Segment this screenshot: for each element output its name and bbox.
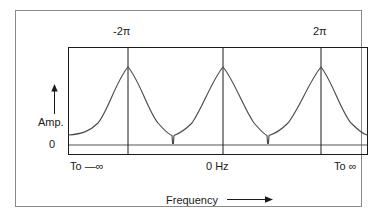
y-axis-tick-label-zero: 0 (49, 139, 55, 150)
spectrum-curve (69, 67, 367, 144)
arrow-up-icon (50, 84, 59, 114)
x-axis-label-frequency: Frequency (166, 195, 218, 206)
x-axis-tick-label-to-negative-infinity: To —∞ (70, 161, 104, 172)
label-positive-two-pi: 2π (313, 26, 327, 37)
x-axis-tick-label-zero-hz: 0 Hz (206, 161, 229, 172)
spectrum-plot (68, 47, 368, 155)
arrow-right-icon (227, 194, 273, 205)
label-negative-two-pi: -2π (113, 26, 130, 37)
y-axis-label-amplitude: Amp. (38, 117, 64, 128)
x-axis-tick-label-to-positive-infinity: To ∞ (334, 161, 357, 172)
spectrum-figure: -2π 2π Amp. 0 To —∞ 0 Hz (0, 0, 376, 217)
plot-area (68, 47, 368, 155)
figure-outer-frame: -2π 2π Amp. 0 To —∞ 0 Hz (15, 10, 362, 207)
